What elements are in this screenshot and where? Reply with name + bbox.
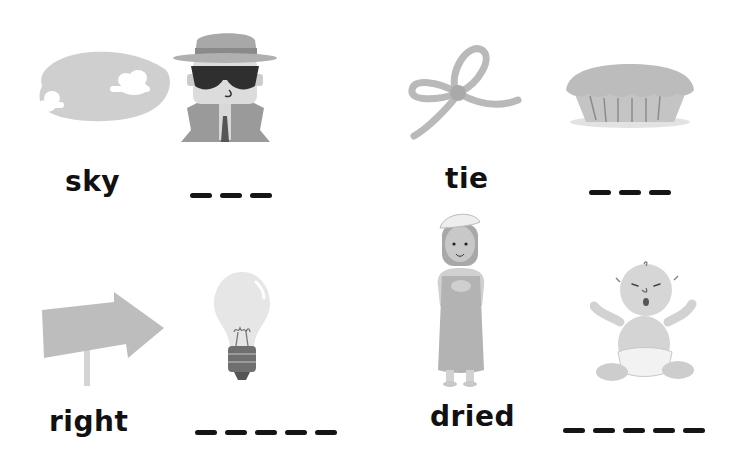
blank-dash (220, 193, 242, 198)
sky-picture (32, 48, 172, 124)
blank-dash (653, 428, 675, 433)
rope-bow-icon (408, 42, 526, 142)
blank-dash (683, 428, 705, 433)
crying-baby-icon (590, 260, 700, 390)
blank-dash (250, 193, 272, 198)
blank-dash (255, 430, 277, 435)
spy-icon (173, 30, 278, 150)
word-right: right (49, 408, 128, 436)
blank-dash (593, 428, 615, 433)
answer-blanks-2[interactable] (589, 190, 671, 195)
blank-dash (285, 430, 307, 435)
right-arrow-icon (40, 290, 166, 386)
blank-dash (619, 190, 641, 195)
blank-dash (563, 428, 585, 433)
arrow-picture (40, 290, 166, 386)
blank-dash (315, 430, 337, 435)
answer-blanks-1[interactable] (190, 193, 272, 198)
answer-blanks-4[interactable] (563, 428, 705, 433)
spy-picture (173, 30, 278, 150)
blank-dash (190, 193, 212, 198)
sky-cloud-icon (32, 48, 172, 124)
blank-dash (195, 430, 217, 435)
word-dried: dried (430, 403, 515, 431)
bulb-picture (212, 270, 272, 384)
woman-picture (428, 210, 498, 390)
word-sky: sky (65, 168, 120, 196)
pie-icon (560, 60, 700, 132)
pie-picture (560, 60, 700, 132)
baby-picture (590, 260, 700, 390)
blank-dash (589, 190, 611, 195)
blank-dash (623, 428, 645, 433)
blank-dash (649, 190, 671, 195)
woman-in-towel-icon (428, 210, 498, 390)
blank-dash (225, 430, 247, 435)
light-bulb-icon (212, 270, 272, 384)
answer-blanks-3[interactable] (195, 430, 337, 435)
word-tie: tie (445, 165, 488, 193)
tie-picture (408, 42, 526, 142)
